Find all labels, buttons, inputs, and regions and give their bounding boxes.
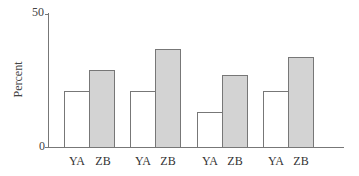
x-label: YA xyxy=(130,154,156,169)
x-label: ZB xyxy=(155,154,181,169)
bar-ya-group-3 xyxy=(197,112,223,148)
y-axis-label: Percent xyxy=(11,50,26,110)
x-label: YA xyxy=(197,154,223,169)
x-label: YA xyxy=(64,154,90,169)
y-tick-50: 50 xyxy=(32,5,44,20)
x-label: ZB xyxy=(90,154,116,169)
x-label: ZB xyxy=(222,154,248,169)
bar-zb-group-1 xyxy=(89,70,115,148)
x-axis xyxy=(48,147,344,148)
bar-ya-group-2 xyxy=(130,91,156,148)
x-label: YA xyxy=(263,154,289,169)
bar-ya-group-1 xyxy=(64,91,90,148)
x-label: ZB xyxy=(288,154,314,169)
bar-zb-group-4 xyxy=(288,57,314,148)
bar-ya-group-4 xyxy=(263,91,289,148)
bar-zb-group-2 xyxy=(155,49,181,148)
y-axis xyxy=(48,13,49,148)
bar-zb-group-3 xyxy=(222,75,248,148)
